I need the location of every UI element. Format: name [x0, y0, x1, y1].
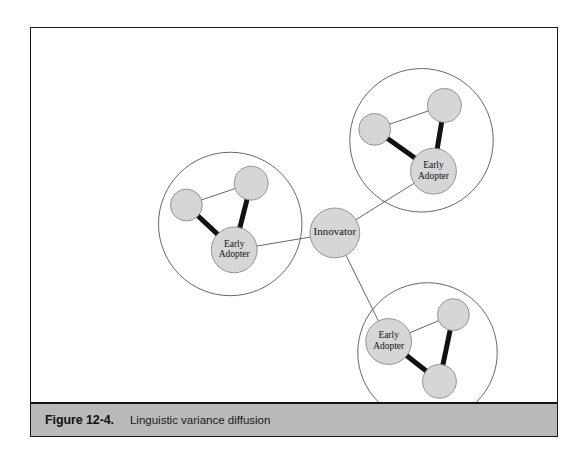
node-circle — [437, 299, 469, 331]
graph-node-bottom-a[interactable] — [437, 299, 469, 331]
figure-caption-band: Figure 12-4. Linguistic variance diffusi… — [31, 402, 557, 436]
graph-node-topright-a[interactable] — [359, 113, 391, 145]
graph-node-left-a[interactable] — [170, 189, 202, 221]
node-circle — [234, 166, 268, 200]
graph-node-bottom-b[interactable] — [423, 364, 457, 398]
edge-thick — [437, 121, 442, 149]
figure-caption-number: Figure 12-4. — [45, 413, 114, 427]
edge-thin — [355, 183, 415, 220]
node-circle — [427, 88, 461, 122]
edge-thin — [256, 237, 311, 246]
figure-frame: InnovatorEarlyAdopterEarlyAdopterEarlyAd… — [30, 27, 558, 437]
node-label: Adopter — [373, 341, 405, 351]
node-label: Adopter — [219, 249, 251, 259]
node-label: Early — [378, 330, 399, 340]
network-diagram: InnovatorEarlyAdopterEarlyAdopterEarlyAd… — [31, 28, 557, 402]
diagram-area: InnovatorEarlyAdopterEarlyAdopterEarlyAd… — [31, 28, 557, 402]
node-layer: InnovatorEarlyAdopterEarlyAdopterEarlyAd… — [170, 88, 469, 398]
node-circle — [170, 189, 202, 221]
edge-thick — [240, 199, 248, 229]
edge-thick — [387, 138, 416, 158]
edge-thin — [201, 188, 237, 200]
graph-node-left-b[interactable] — [234, 166, 268, 200]
graph-node-ea-left[interactable]: EarlyAdopter — [211, 227, 257, 273]
edge-thin — [389, 111, 430, 125]
edge-thin — [409, 320, 440, 333]
node-label: Innovator — [314, 225, 357, 237]
edge-thick — [197, 215, 218, 235]
graph-node-topright-b[interactable] — [427, 88, 461, 122]
graph-node-innovator[interactable]: Innovator — [310, 208, 360, 258]
node-circle — [423, 364, 457, 398]
edge-thick — [443, 329, 451, 366]
graph-node-ea-topright[interactable]: EarlyAdopter — [411, 148, 457, 194]
edge-thick — [406, 355, 427, 371]
node-label: Early — [224, 239, 245, 249]
edge-thin — [345, 254, 378, 322]
node-label: Early — [423, 160, 444, 170]
node-circle — [359, 113, 391, 145]
node-label: Adopter — [418, 171, 450, 181]
graph-node-ea-bottom[interactable]: EarlyAdopter — [366, 319, 412, 365]
figure-root: InnovatorEarlyAdopterEarlyAdopterEarlyAd… — [0, 0, 587, 456]
figure-caption-text: Linguistic variance diffusion — [130, 414, 270, 426]
cluster-circle — [159, 152, 302, 295]
